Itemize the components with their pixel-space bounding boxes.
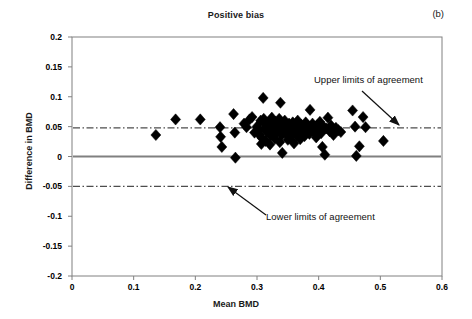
data-point-marker xyxy=(354,141,364,152)
x-tick-label: 0.6 xyxy=(422,282,462,292)
lower-limits-arrow xyxy=(228,187,266,215)
y-tick-label-text: 0.1 xyxy=(28,92,62,102)
y-tick-label: -0.15 xyxy=(28,241,66,251)
plot-canvas xyxy=(0,0,472,319)
y-tick-label: 0.05 xyxy=(28,122,66,132)
y-tick-label-text: -0.05 xyxy=(28,181,62,191)
x-tick-label: 0.5 xyxy=(360,282,400,292)
data-point-marker xyxy=(350,121,360,132)
axes-layer xyxy=(68,37,442,280)
y-tick-label: 0.1 xyxy=(28,92,66,102)
data-point-marker xyxy=(351,150,361,161)
y-tick-label: 0 xyxy=(28,152,66,162)
data-point-marker xyxy=(171,114,181,125)
x-tick-label: 0.3 xyxy=(237,282,277,292)
y-tick-label-text: 0.15 xyxy=(28,62,62,72)
data-point-marker xyxy=(378,135,388,146)
y-tick-label-text: 0 xyxy=(28,152,62,162)
data-point-marker xyxy=(258,92,268,103)
y-tick-label-text: 0.05 xyxy=(28,122,62,132)
bland-altman-chart: Positive bias (b) Difference in BMD Mean… xyxy=(0,0,472,319)
data-point-marker xyxy=(275,97,285,108)
data-point-marker xyxy=(216,131,226,142)
y-tick-label-text: -0.2 xyxy=(28,271,62,281)
data-point-marker xyxy=(230,152,240,163)
y-tick-label-text: -0.15 xyxy=(28,241,62,251)
y-tick-label-text: -0.1 xyxy=(28,211,62,221)
data-point-marker xyxy=(361,122,371,133)
x-tick-label: 0 xyxy=(52,282,92,292)
upper-limits-arrow xyxy=(362,91,399,125)
data-point-marker xyxy=(151,129,161,140)
data-point-marker xyxy=(230,127,240,138)
y-tick-label: 0.2 xyxy=(28,32,66,42)
x-tick-label: 0.2 xyxy=(175,282,215,292)
data-point-marker xyxy=(229,108,239,119)
x-tick-label: 0.1 xyxy=(114,282,154,292)
y-tick-label: -0.1 xyxy=(28,211,66,221)
data-point-marker xyxy=(217,141,227,152)
data-point-marker xyxy=(215,122,225,133)
x-tick-label: 0.4 xyxy=(299,282,339,292)
y-tick-label-text: 0.2 xyxy=(28,32,62,42)
data-point-marker xyxy=(358,111,368,122)
y-tick-label: -0.2 xyxy=(28,271,66,281)
data-point-marker xyxy=(195,114,205,125)
y-tick-label: 0.15 xyxy=(28,62,66,72)
data-point-marker xyxy=(348,105,358,116)
y-tick-label: -0.05 xyxy=(28,181,66,191)
data-point-marker xyxy=(305,104,315,115)
